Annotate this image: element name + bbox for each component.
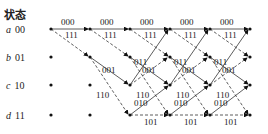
branch-label: 000 [220, 17, 234, 27]
trellis-node [248, 113, 251, 116]
branch-label: 000 [100, 17, 114, 27]
branch-label: 101 [224, 117, 238, 127]
trellis-node [88, 113, 91, 116]
branch-label: 000 [140, 17, 154, 27]
branch-label: 000 [180, 17, 194, 27]
branch-label: 111 [65, 30, 78, 40]
trellis-node [168, 27, 171, 30]
branch-label: 010 [174, 98, 188, 108]
branch-label: 111 [184, 30, 197, 40]
trellis-node [208, 55, 211, 58]
branch-label: 101 [144, 117, 158, 127]
trellis-node [49, 113, 52, 116]
trellis-node [128, 83, 131, 86]
trellis-node [88, 55, 91, 58]
trellis-node [248, 27, 251, 30]
trellis-node [248, 83, 251, 86]
trellis-node [248, 55, 251, 58]
branch-label: 011 [214, 57, 227, 67]
trellis-node [208, 83, 211, 86]
trellis-node [49, 27, 52, 30]
branch-label: 011 [174, 57, 187, 67]
branch-label: 010 [134, 98, 148, 108]
trellis-node [128, 27, 131, 30]
branch-label: 010 [214, 98, 228, 108]
trellis-node [128, 55, 131, 58]
trellis-node [168, 113, 171, 116]
branch-label: 111 [104, 30, 117, 40]
trellis-node [49, 55, 52, 58]
branch-label: 000 [61, 17, 75, 27]
trellis-node [128, 113, 131, 116]
trellis-node [208, 113, 211, 116]
branch-label: 110 [96, 90, 110, 100]
branch-label: 111 [224, 30, 237, 40]
trellis-node [88, 27, 91, 30]
trellis-node [88, 83, 91, 86]
branch-label: 011 [134, 57, 147, 67]
trellis-node [208, 27, 211, 30]
trellis-node [49, 83, 52, 86]
trellis-diagram: 0001110001110011100001110011100110101010… [0, 0, 268, 134]
trellis-node [168, 83, 171, 86]
branch-label: 111 [144, 30, 157, 40]
branch-label: 101 [184, 117, 198, 127]
trellis-node [168, 55, 171, 58]
branch-label: 001 [102, 65, 116, 75]
